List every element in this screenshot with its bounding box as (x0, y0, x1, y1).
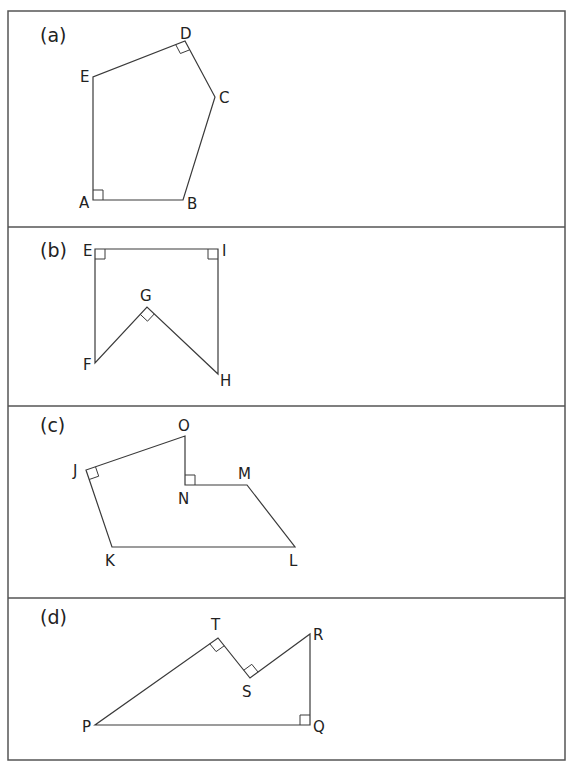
vertex-label-p: P (82, 718, 91, 736)
vertex-label-d: D (180, 25, 192, 43)
vertex-label-k: K (105, 552, 116, 570)
polygon-a (93, 41, 215, 200)
vertex-label-b: B (187, 195, 197, 213)
vertex-label-j: J (72, 462, 77, 480)
vertex-label-o: O (178, 417, 190, 435)
panel-dividers (8, 227, 565, 598)
vertex-label-e: E (83, 242, 92, 260)
panel-a: (a)ABCDE (40, 24, 229, 213)
polygon-b (95, 249, 218, 374)
vertex-label-r: R (313, 626, 323, 644)
vertex-label-e: E (80, 68, 89, 86)
vertex-label-n: N (178, 490, 189, 508)
vertex-label-s: S (242, 683, 252, 701)
vertex-label-l: L (289, 552, 298, 570)
vertex-label-i: I (222, 242, 226, 260)
polygon-c (86, 436, 295, 547)
vertex-label-f: F (83, 356, 92, 374)
polygon-d (95, 634, 310, 725)
right-angle-marker-q (300, 715, 310, 725)
panels: (a)ABCDE(b)EIGFH(c)ONMLKJ(d)TSRQP (40, 24, 325, 736)
polygon-exercise-figure: (a)ABCDE(b)EIGFH(c)ONMLKJ(d)TSRQP (0, 0, 570, 763)
vertex-label-q: Q (313, 718, 325, 736)
panel-label: (a) (40, 24, 66, 46)
panel-label: (c) (40, 414, 65, 436)
vertex-label-m: M (238, 465, 251, 483)
vertex-label-a: A (79, 194, 90, 212)
right-angle-marker-i (208, 249, 218, 259)
panel-d: (d)TSRQP (40, 606, 325, 736)
panel-label: (d) (40, 606, 67, 628)
vertex-label-g: G (140, 287, 152, 305)
vertex-label-t: T (210, 616, 221, 634)
right-angle-marker-n (185, 475, 195, 485)
panel-b: (b)EIGFH (40, 239, 231, 390)
panel-label: (b) (40, 239, 67, 261)
right-angle-marker-g (140, 314, 154, 321)
panel-c: (c)ONMLKJ (40, 414, 298, 570)
vertex-label-c: C (219, 89, 229, 107)
right-angle-marker-t (210, 644, 224, 652)
right-angle-marker-s (244, 664, 258, 672)
vertex-label-h: H (220, 372, 231, 390)
outer-frame (8, 11, 565, 760)
right-angle-marker-e (95, 249, 105, 259)
right-angle-marker-a (93, 190, 103, 200)
